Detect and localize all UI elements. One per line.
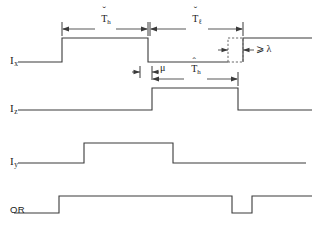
dimension-mu — [132, 66, 159, 80]
dimension-label-T-check-l-sub: ℓ — [198, 18, 201, 26]
dimension-label-mu: μ — [160, 63, 165, 73]
dimension-label-T-check-h-sub: h — [107, 18, 111, 26]
signal-label-or: OR — [10, 205, 25, 215]
signal-label-iy: Iy — [10, 156, 18, 169]
dimension-label-T-check-l: ˇ Tℓ — [187, 14, 207, 26]
dimension-label-T-hat-h: ˆ Th — [186, 64, 206, 76]
lambda-constraint-text: ⩾ λ — [256, 43, 271, 54]
hat-accent-icon: ˆ — [193, 57, 196, 67]
mu-symbol: μ — [160, 62, 165, 73]
waveform-or — [14, 196, 312, 213]
dashed-pulse-box-ix — [228, 38, 243, 62]
waveform-canvas — [0, 0, 318, 230]
signal-label-iz-sub: z — [14, 107, 18, 116]
dimension-label-T-hat-h-sub: h — [197, 68, 201, 76]
timing-diagram-figure: Ix Iz Iy OR ˇ Th ˇ Tℓ μ ˆ Th ⩾ λ — [0, 0, 318, 230]
dimension-lambda — [218, 48, 254, 53]
waveform-iz — [18, 88, 312, 110]
signal-label-ix-sub: x — [14, 59, 18, 68]
dimension-label-T-check-h-base: T — [101, 14, 107, 24]
caron-accent-icon: ˇ — [103, 6, 106, 16]
dimension-label-T-check-h: ˇ Th — [96, 14, 116, 26]
signal-label-iz: Iz — [10, 103, 18, 116]
dimension-label-lambda: ⩾ λ — [256, 44, 271, 54]
waveform-iy — [18, 143, 306, 163]
signal-label-ix: Ix — [10, 55, 18, 68]
signal-label-iy-sub: y — [14, 160, 18, 169]
dimension-label-T-check-l-base: T — [192, 14, 198, 24]
caron-accent-icon: ˇ — [194, 6, 197, 16]
signal-label-or-base: OR — [10, 204, 25, 215]
